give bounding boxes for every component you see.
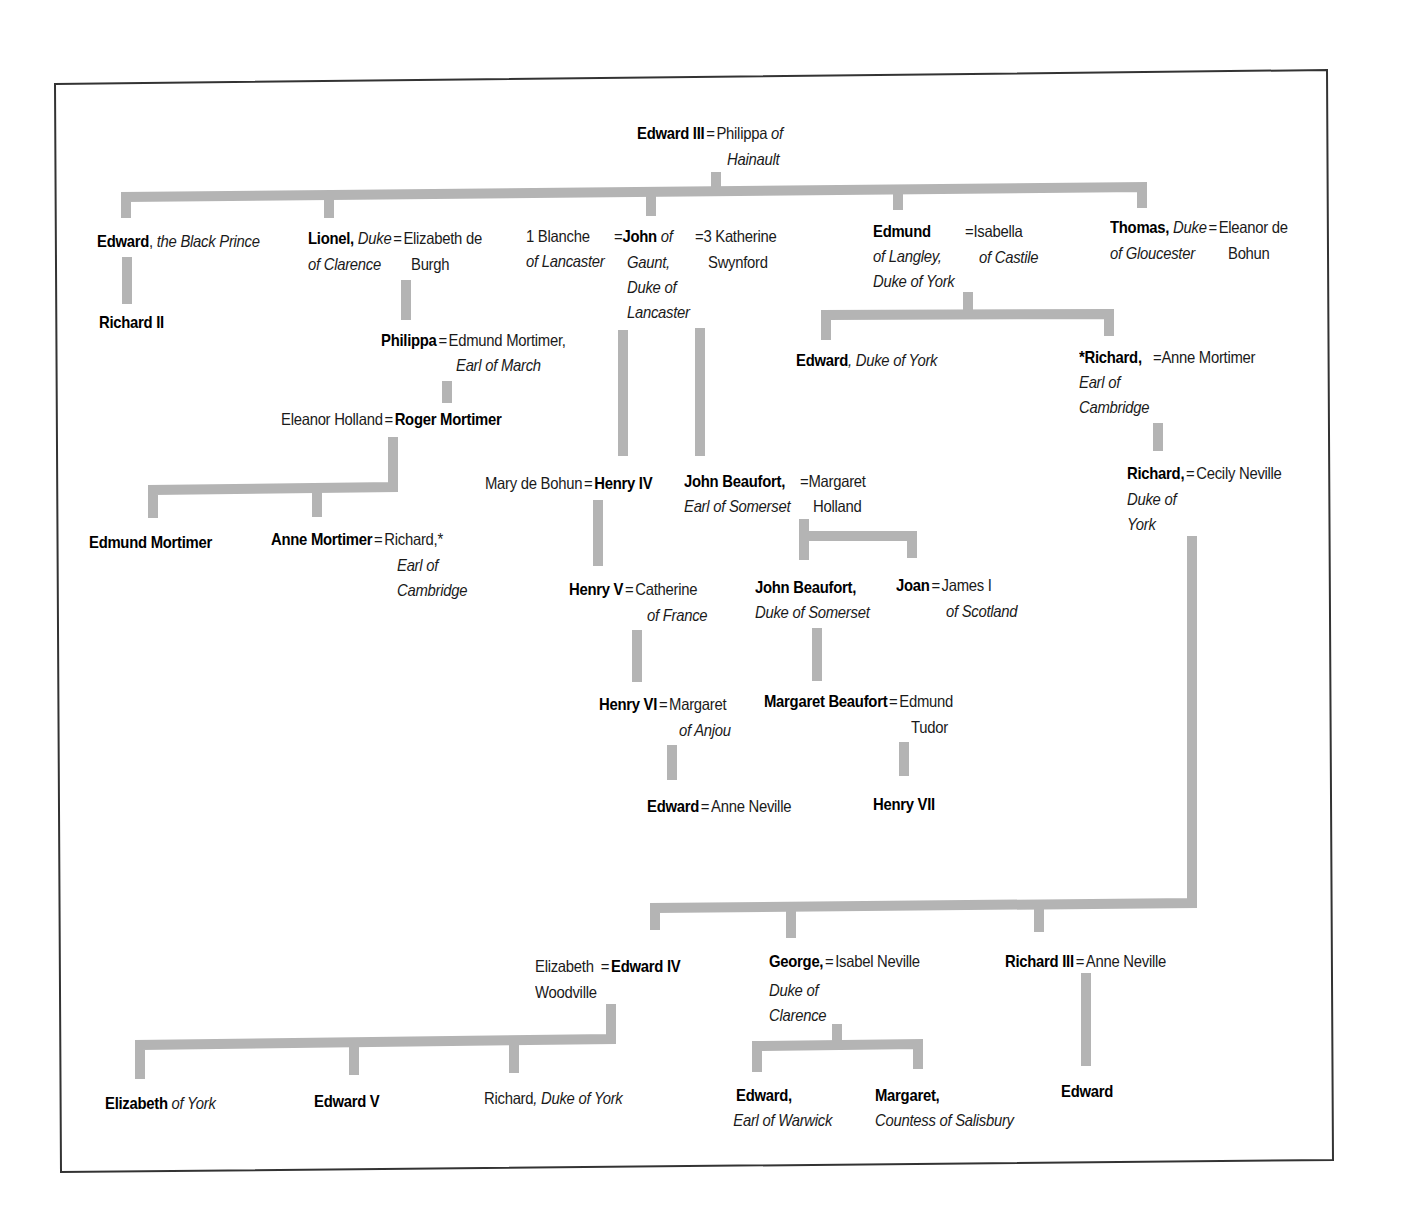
- spouse: =Margaret: [800, 469, 866, 494]
- family-tree-diagram: Edward III=Philippa of Hainault Edward, …: [0, 0, 1410, 1231]
- name: Richard II: [99, 313, 164, 331]
- marriage-sign: =: [889, 692, 897, 710]
- spouse: Anne Neville: [711, 797, 791, 815]
- node-katherine-swynford-2: Swynford: [708, 250, 768, 275]
- node-lionel-spouse-line2: Burgh: [411, 252, 449, 277]
- title: Earl of Warwick: [733, 1108, 832, 1133]
- spouse-blanche: 1 Blanche: [526, 224, 604, 249]
- spouse: Woodville: [535, 983, 597, 1001]
- title: of Gloucester: [1110, 244, 1195, 262]
- name: Henry VI: [599, 695, 657, 713]
- node-richard-cambridge: *Richard, Earl of Cambridge: [1079, 345, 1149, 420]
- node-edmund-mortimer: Edmund Mortimer: [89, 530, 212, 555]
- name: Richard III: [1005, 952, 1074, 970]
- spouse: Tudor: [911, 718, 948, 736]
- marriage-sign: =: [659, 695, 667, 713]
- marriage-sign: =: [1186, 464, 1194, 482]
- name: Henry IV: [594, 474, 652, 492]
- title: Duke of: [769, 978, 826, 1003]
- spouse-title: Cambridge: [397, 578, 467, 603]
- title: Duke of Somerset: [755, 600, 870, 625]
- spouse: Catherine: [635, 580, 697, 598]
- name: Margaret Beaufort: [764, 692, 887, 710]
- node-thomas-title: of Gloucester: [1110, 241, 1195, 266]
- spouse-title: of: [771, 124, 783, 142]
- spouse-title: of Lancaster: [526, 249, 604, 274]
- title: of: [657, 227, 673, 245]
- spouse: Elizabeth: [535, 957, 594, 975]
- node-edward-iii-spouse-title: Hainault: [727, 147, 779, 172]
- marriage-sign: =: [1076, 952, 1084, 970]
- name: Joan: [896, 576, 930, 594]
- node-richard-ii: Richard II: [99, 310, 164, 335]
- spouse-title: Earl of March: [456, 356, 541, 374]
- title: , Duke of York: [848, 351, 937, 369]
- marriage-sign: =: [384, 410, 392, 428]
- title: the Black Prince: [157, 232, 260, 250]
- title-line: Gaunt,: [627, 250, 690, 275]
- title-line: Duke of: [627, 275, 690, 300]
- node-richard-duke-of-york: Richard,=Cecily Neville: [1127, 461, 1282, 486]
- marriage-sign: =: [701, 797, 709, 815]
- name: Anne Mortimer: [271, 530, 372, 548]
- title: Duke of York: [873, 269, 955, 294]
- spouse: Edmund: [899, 692, 953, 710]
- marriage-sign: =: [374, 530, 382, 548]
- node-richard-of-shrewsbury: Richard, Duke of York: [484, 1086, 623, 1111]
- node-henry-v: Henry V=Catherine: [569, 577, 697, 602]
- spouse-title: of France: [647, 606, 707, 624]
- title: Clarence: [769, 1003, 826, 1028]
- node-lionel: Lionel, Duke=Elizabeth de: [308, 226, 482, 251]
- node-john-beaufort-duke: John Beaufort, Duke of Somerset: [755, 575, 870, 625]
- spouse: =3 Katherine: [695, 224, 776, 249]
- spouse-title: of Scotland: [946, 602, 1017, 620]
- spouse: Edmund Mortimer,: [449, 331, 566, 349]
- spouse: Margaret: [669, 695, 726, 713]
- name: Edmund Mortimer: [89, 533, 212, 551]
- name: Richard,: [1127, 464, 1184, 482]
- title: , Duke of York: [533, 1089, 622, 1107]
- node-anne-mortimer-spouse-title: Earl of Cambridge: [397, 553, 467, 603]
- marriage-sign: =: [706, 124, 714, 142]
- node-henry-iv: Mary de Bohun=Henry IV: [485, 471, 652, 496]
- name-edward-iii: Edward III: [637, 124, 704, 142]
- node-george-title: Duke of Clarence: [769, 978, 826, 1028]
- spouse: Anne Neville: [1086, 952, 1166, 970]
- marriage-sign: =: [1208, 218, 1216, 236]
- node-john-of-gaunt: =John of: [614, 224, 673, 249]
- marriage-sign: =: [601, 957, 609, 975]
- node-black-prince: Edward, the Black Prince: [97, 229, 260, 254]
- node-john-of-gaunt-titles: Gaunt, Duke of Lancaster: [627, 250, 690, 325]
- spouse: Burgh: [411, 255, 449, 273]
- node-edward-of-middleham: Edward: [1061, 1079, 1113, 1104]
- node-isabella-castile-title: of Castile: [979, 245, 1038, 270]
- name: Richard: [484, 1089, 533, 1107]
- spouse-philippa: Philippa: [716, 124, 771, 142]
- node-eleanor-bohun: Bohun: [1228, 241, 1270, 266]
- name: Lionel,: [308, 229, 358, 247]
- title: of Langley,: [873, 244, 955, 269]
- node-roger-mortimer: Eleanor Holland=Roger Mortimer: [281, 407, 501, 432]
- title: Duke of: [1127, 487, 1176, 512]
- title: Earl of Somerset: [684, 494, 790, 519]
- spouse-title-hainault: Hainault: [727, 150, 779, 168]
- marriage-sign: =: [825, 952, 833, 970]
- spouse: James I: [942, 576, 992, 594]
- name: Roger Mortimer: [395, 410, 502, 428]
- name: Henry VII: [873, 795, 935, 813]
- node-katherine-swynford: =3 Katherine: [695, 224, 776, 249]
- node-margaret-beaufort: Margaret Beaufort=Edmund: [764, 689, 953, 714]
- spouse: Holland: [813, 494, 861, 519]
- name: Margaret,: [875, 1083, 1014, 1108]
- node-blanche: 1 Blanche of Lancaster: [526, 224, 604, 274]
- title: Earl of: [1079, 370, 1149, 395]
- node-edward-iii: Edward III=Philippa of: [637, 121, 783, 146]
- name: Henry V: [569, 580, 623, 598]
- node-edmund-langley: Edmund of Langley, Duke of York: [873, 219, 955, 294]
- node-george-clarence: George,=Isabel Neville: [769, 949, 920, 974]
- node-edward-duke-of-york: Edward, Duke of York: [796, 348, 937, 373]
- title: Duke: [358, 229, 392, 247]
- name: Edward: [97, 232, 149, 250]
- title: York: [1127, 512, 1176, 537]
- name: *Richard,: [1079, 345, 1149, 370]
